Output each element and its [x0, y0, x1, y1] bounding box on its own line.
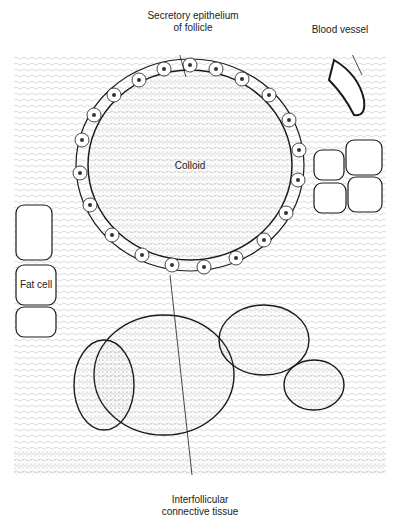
label-interfollicular: Interfollicular connective tissue	[140, 494, 260, 518]
label-line-1: Secretory epithelium	[128, 10, 258, 22]
label-fat-cell: Fat cell	[16, 279, 56, 291]
label-line-2: of follicle	[128, 22, 258, 34]
thyroid-illustration: Colloid Fat cell	[14, 55, 386, 475]
label-blood-vessel: Blood vessel	[300, 24, 380, 36]
illustration-canvas	[14, 55, 386, 475]
label-secretory-epithelium: Secretory epithelium of follicle	[128, 10, 258, 34]
label-colloid: Colloid	[164, 160, 216, 172]
label-line-1: Interfollicular	[140, 494, 260, 506]
label-line-2: connective tissue	[140, 506, 260, 518]
